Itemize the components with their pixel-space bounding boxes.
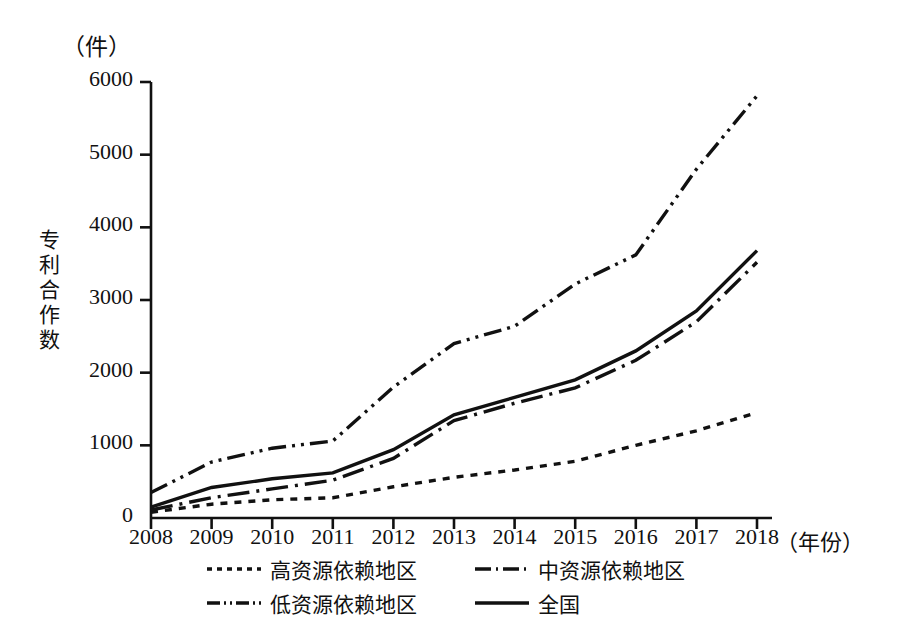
legend-row: 低资源依赖地区 全国 [206,586,766,620]
legend-item-mid: 中资源依赖地区 [474,554,685,584]
series-line [151,96,757,493]
data-series [151,96,757,512]
legend-label-mid: 中资源依赖地区 [538,554,685,584]
legend-row: 高资源依赖地区 中资源依赖地区 [206,552,766,586]
legend-item-high: 高资源依赖地区 [206,554,474,584]
legend-item-low: 低资源依赖地区 [206,588,474,618]
legend-swatch-dashdotdot [206,596,262,610]
plot-area [0,0,897,643]
series-line [151,413,757,513]
legend-item-national: 全国 [474,588,580,618]
axes [140,82,772,529]
series-line [151,251,757,508]
legend-swatch-dotted [206,562,262,576]
series-line [151,262,757,510]
legend-swatch-dashdot [474,562,530,576]
chart-figure: （件） 专利合作数 （年份） 0100020003000400050006000… [0,0,897,643]
legend-label-low: 低资源依赖地区 [270,588,417,618]
legend-label-high: 高资源依赖地区 [270,554,417,584]
legend-label-national: 全国 [538,588,580,618]
chart-legend: 高资源依赖地区 中资源依赖地区 低资源依赖地区 全国 [206,552,766,620]
legend-swatch-solid [474,596,530,610]
